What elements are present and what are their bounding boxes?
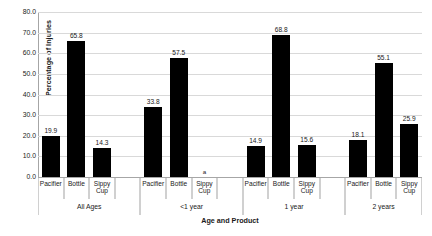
y-axis-tick-labels: 0.010.020.030.040.050.060.070.080.0: [10, 0, 36, 236]
category-tick-label: Bottle: [166, 178, 192, 199]
category-tick-label-text: Bottle: [170, 180, 187, 188]
category-tick-label-text: Sippy Cup: [295, 180, 319, 195]
group-label-band: All Ages<1 year1 year2 years: [38, 199, 422, 215]
category-tick-label-text: Sippy Cup: [193, 180, 217, 195]
y-tick-label: 50.0: [10, 70, 36, 78]
y-tick-label: 10.0: [10, 152, 36, 160]
category-tick-label-text: Bottle: [273, 180, 290, 188]
bar-value-label: 25.9: [390, 115, 428, 123]
category-tick-label-text: Bottle: [68, 180, 85, 188]
bar[interactable]: [67, 41, 85, 177]
bar-value-label: 65.8: [57, 32, 95, 40]
bar[interactable]: [247, 146, 265, 177]
category-spacer-cell: [115, 178, 141, 199]
bar[interactable]: [400, 124, 418, 177]
bar-chart: Percentage of Injuries 0.010.020.030.040…: [0, 0, 432, 236]
bar-value-label: 15.6: [288, 136, 326, 144]
category-tick-label-text: Pacifier: [142, 180, 164, 188]
y-tick-label: 80.0: [10, 8, 36, 16]
bar-value-label: 18.1: [339, 131, 377, 139]
category-tick-label-text: Pacifier: [347, 180, 369, 188]
bar-value-label: 14.9: [236, 137, 274, 145]
group-tick-label-text: All Ages: [77, 203, 102, 211]
category-tick-label-text: Sippy Cup: [397, 180, 421, 195]
group-tick-label: 2 years: [345, 199, 422, 215]
category-tick-label: Pacifier: [38, 178, 64, 199]
category-tick-label-text: Pacifier: [40, 180, 62, 188]
bar[interactable]: [93, 148, 111, 177]
group-tick-label-text: 1 year: [285, 203, 304, 211]
suppressed-value-footnote-marker: a: [185, 168, 223, 176]
bar-value-label: 33.8: [134, 98, 172, 106]
bar[interactable]: [144, 107, 162, 177]
category-tick-label: Sippy Cup: [396, 178, 422, 199]
category-tick-label: Sippy Cup: [192, 178, 218, 199]
y-tick-label: 0.0: [10, 173, 36, 181]
group-tick-label: All Ages: [38, 199, 140, 215]
bar-value-label: 55.1: [364, 54, 402, 62]
bar[interactable]: [298, 145, 316, 177]
group-tick-label: <1 year: [140, 199, 242, 215]
category-tick-label: Pacifier: [140, 178, 166, 199]
category-spacer-cell: [320, 178, 346, 199]
gridline: [38, 74, 422, 75]
y-tick-label: 40.0: [10, 91, 36, 99]
category-tick-label: Bottle: [268, 178, 294, 199]
category-label-band: PacifierBottleSippy CupPacifierBottleSip…: [38, 178, 422, 199]
category-tick-label: Bottle: [64, 178, 90, 199]
y-tick-label: 70.0: [10, 29, 36, 37]
category-tick-label-text: Sippy Cup: [90, 180, 114, 195]
bar[interactable]: [272, 35, 290, 177]
bar[interactable]: [349, 140, 367, 177]
group-tick-label: 1 year: [243, 199, 345, 215]
category-tick-label: Pacifier: [243, 178, 269, 199]
bar-value-label: 19.9: [32, 127, 70, 135]
y-tick-label: 60.0: [10, 49, 36, 57]
x-axis-title: Age and Product: [38, 216, 422, 226]
category-tick-label: Bottle: [371, 178, 397, 199]
category-spacer-cell: [217, 178, 243, 199]
gridline: [38, 33, 422, 34]
group-tick-label-text: <1 year: [180, 203, 203, 211]
category-tick-label: Sippy Cup: [89, 178, 115, 199]
category-tick-label: Sippy Cup: [294, 178, 320, 199]
plot-area: 19.965.814.333.857.5a14.968.815.618.155.…: [38, 12, 422, 177]
bar[interactable]: [42, 136, 60, 177]
bar-value-label: 14.3: [83, 139, 121, 147]
category-tick-label: Pacifier: [345, 178, 371, 199]
category-tick-label-text: Pacifier: [245, 180, 267, 188]
group-tick-label-text: 2 years: [372, 203, 394, 211]
y-tick-label: 30.0: [10, 111, 36, 119]
bar-value-label: 68.8: [262, 26, 300, 34]
bar-value-label: 57.5: [160, 49, 198, 57]
gridline: [38, 115, 422, 116]
gridline: [38, 12, 422, 13]
bar[interactable]: [170, 58, 188, 177]
category-tick-label-text: Bottle: [375, 180, 392, 188]
gridline: [38, 95, 422, 96]
